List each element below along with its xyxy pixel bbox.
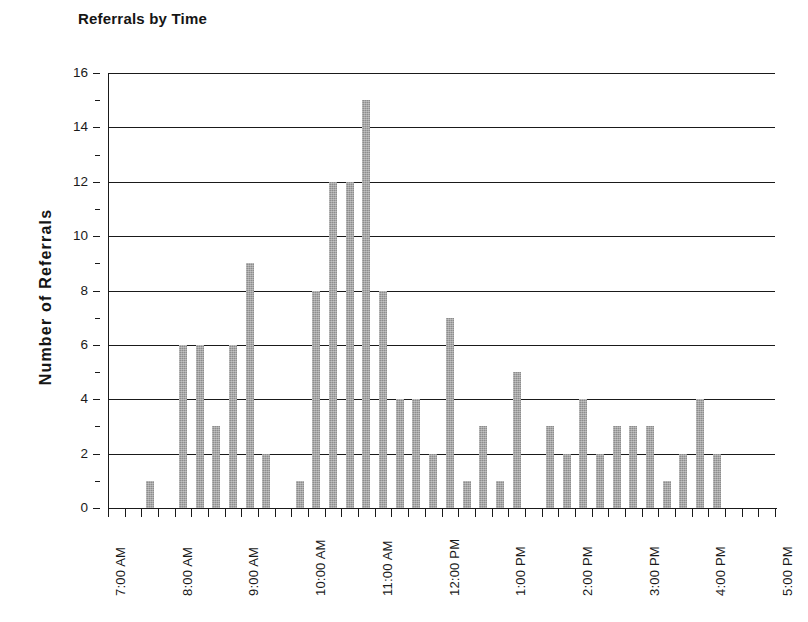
bar: [713, 454, 721, 508]
y-tick-minor: [95, 209, 100, 210]
x-tick: [191, 508, 192, 517]
bar: [429, 454, 437, 508]
bar: [196, 345, 204, 508]
y-tick-label: 16: [58, 66, 88, 80]
x-tick: [475, 508, 476, 517]
gridline: [108, 399, 775, 400]
x-tick-label: 10:00 AM: [313, 539, 328, 596]
gridline: [108, 291, 775, 292]
y-tick-label: 8: [58, 284, 88, 298]
bar: [146, 481, 154, 508]
x-tick: [525, 508, 526, 517]
y-tick-label: 10: [58, 229, 88, 243]
y-tick-major: [93, 182, 100, 183]
bar: [346, 182, 354, 508]
x-tick: [458, 508, 459, 517]
bar: [463, 481, 471, 508]
x-tick: [141, 508, 142, 517]
x-tick-label: 8:00 AM: [180, 547, 195, 596]
y-tick-minor: [95, 372, 100, 373]
x-tick-label: 3:00 PM: [647, 546, 662, 596]
x-tick: [125, 508, 126, 517]
y-tick-minor: [95, 155, 100, 156]
x-tick: [258, 508, 259, 517]
x-tick: [358, 508, 359, 517]
bar: [613, 426, 621, 508]
y-tick-major: [93, 73, 100, 74]
y-tick-label: 4: [58, 392, 88, 406]
x-tick: [275, 508, 276, 517]
bar: [246, 263, 254, 508]
gridline: [108, 454, 775, 455]
y-axis-tick-labels: 0246810121416: [62, 73, 100, 508]
gridline: [108, 345, 775, 346]
bar: [412, 399, 420, 508]
y-tick-major: [93, 291, 100, 292]
x-tick: [442, 508, 443, 517]
bar: [663, 481, 671, 508]
x-tick-label: 11:00 AM: [380, 540, 395, 596]
y-tick-label: 6: [58, 338, 88, 352]
y-tick-minor: [95, 318, 100, 319]
x-tick: [492, 508, 493, 517]
bar: [563, 454, 571, 508]
x-tick: [241, 508, 242, 517]
y-tick-label: 14: [58, 120, 88, 134]
bar: [513, 372, 521, 508]
x-tick: [225, 508, 226, 517]
x-tick: [508, 508, 509, 517]
y-axis-title: Number of Referrals: [37, 177, 55, 417]
x-tick: [575, 508, 576, 517]
y-tick-major: [93, 236, 100, 237]
x-tick: [291, 508, 292, 517]
bar: [179, 345, 187, 508]
x-tick: [542, 508, 543, 517]
bar: [362, 100, 370, 508]
bar: [379, 291, 387, 509]
bar: [496, 481, 504, 508]
bar: [296, 481, 304, 508]
y-tick-label: 12: [58, 175, 88, 189]
x-tick: [742, 508, 743, 517]
bar: [479, 426, 487, 508]
x-tick-label: 2:00 PM: [580, 546, 595, 596]
x-tick-label: 5:00 PM: [780, 546, 795, 596]
x-tick: [775, 508, 776, 517]
x-tick: [391, 508, 392, 517]
bar: [546, 426, 554, 508]
x-tick: [325, 508, 326, 517]
y-tick-label: 0: [58, 501, 88, 515]
x-tick: [425, 508, 426, 517]
y-tick-minor: [95, 426, 100, 427]
y-tick-minor: [95, 263, 100, 264]
y-tick-major: [93, 454, 100, 455]
gridline: [108, 73, 775, 74]
gridline: [108, 236, 775, 237]
x-tick: [692, 508, 693, 517]
x-tick: [608, 508, 609, 517]
x-tick: [108, 508, 109, 517]
x-tick: [208, 508, 209, 517]
y-tick-minor: [95, 481, 100, 482]
x-tick-label: 9:00 AM: [246, 547, 261, 596]
y-tick-minor: [95, 100, 100, 101]
y-tick-label: 2: [58, 447, 88, 461]
bar: [212, 426, 220, 508]
chart-title: Referrals by Time: [78, 10, 207, 27]
bar: [396, 399, 404, 508]
x-tick: [375, 508, 376, 517]
y-tick-major: [93, 345, 100, 346]
x-tick: [675, 508, 676, 517]
x-tick-label: 1:00 PM: [513, 546, 528, 596]
bar: [229, 345, 237, 508]
bar: [629, 426, 637, 508]
x-tick: [758, 508, 759, 517]
x-tick-label: 4:00 PM: [713, 546, 728, 596]
bar: [679, 454, 687, 508]
gridline: [108, 182, 775, 183]
x-tick: [708, 508, 709, 517]
bar: [329, 182, 337, 508]
x-tick: [175, 508, 176, 517]
x-tick: [158, 508, 159, 517]
bar: [446, 318, 454, 508]
